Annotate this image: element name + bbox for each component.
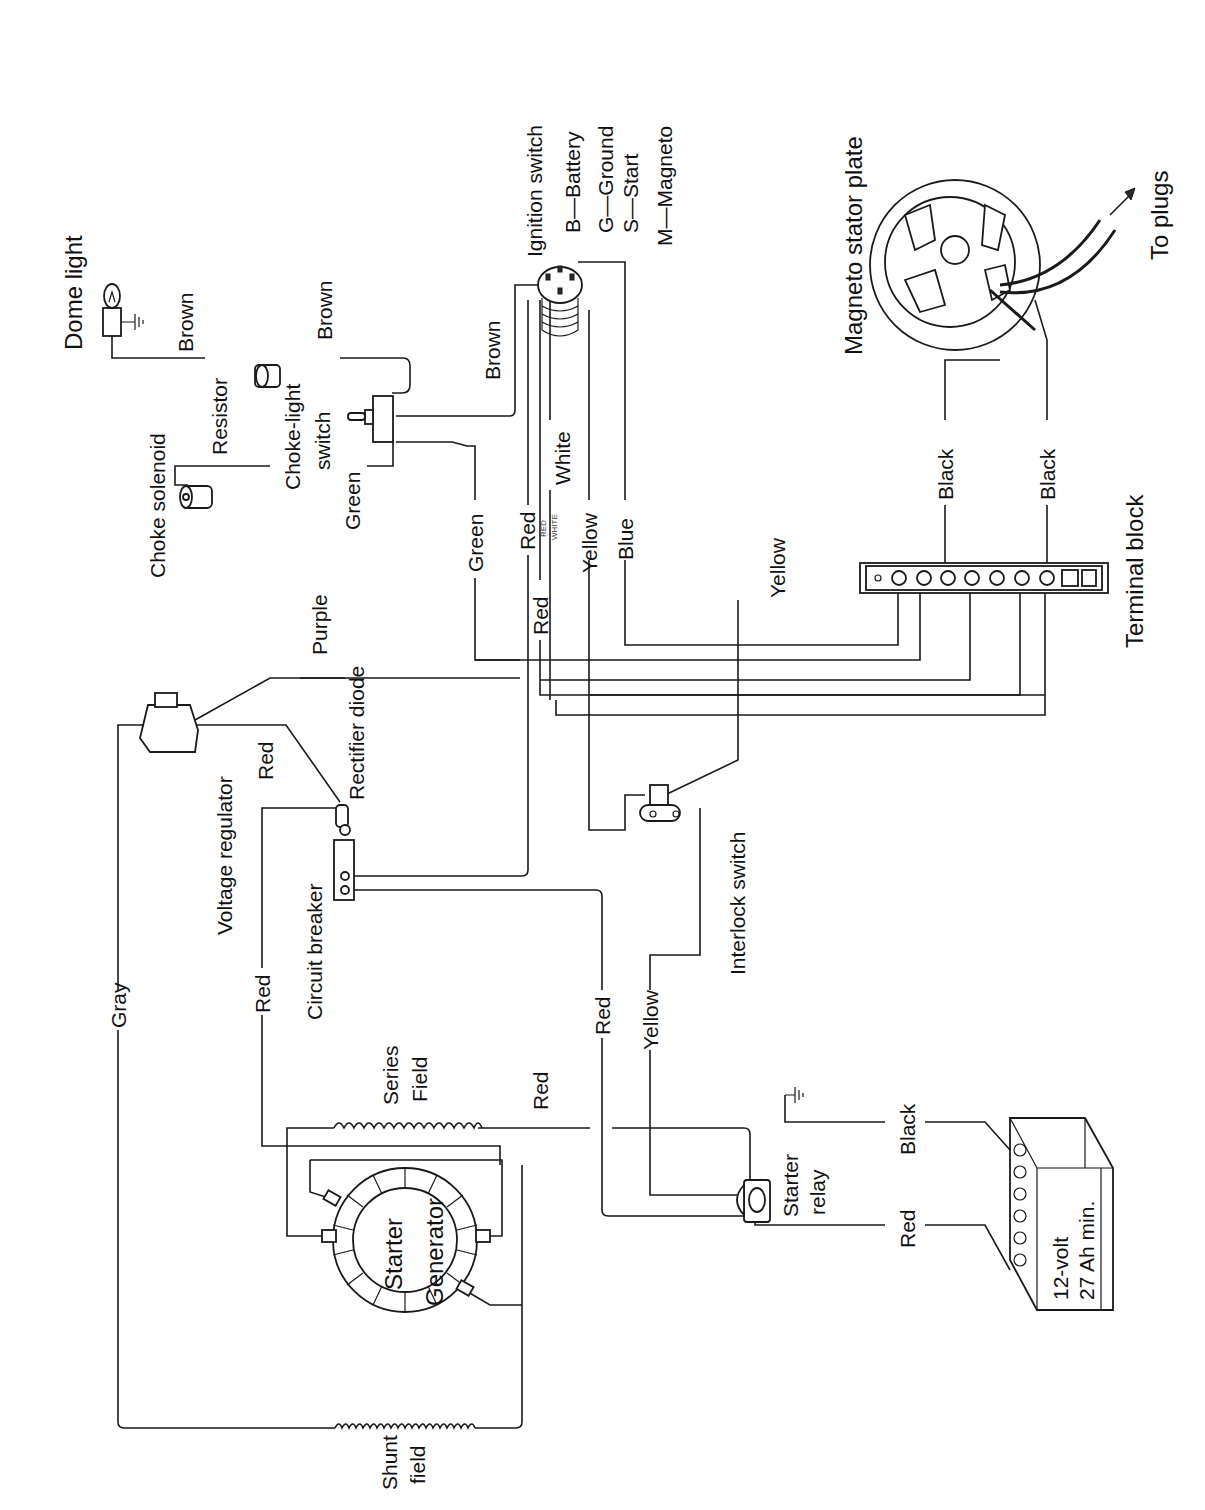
label-battery-1: 12-volt [1049,1237,1072,1300]
label-resistor: Resistor [208,378,231,455]
wire-label-red-mid: Red [591,996,614,1035]
wire-label-gray: Gray [107,982,130,1028]
wire-label-white-small: WHITE [550,514,559,540]
wire-label-red-regulator: Red [254,741,277,780]
wire-label-purple: Purple [308,594,331,655]
label-choke-light-switch-2: switch [311,412,334,470]
label-magneto-stator-plate: Magneto stator plate [840,136,867,355]
choke-light-switch-icon [348,396,393,442]
wire-label-brown-dome: Brown [174,292,197,352]
label-series-field-1: Series [379,1045,402,1105]
label-starter-relay-2: relay [806,1169,829,1215]
wire-label-red-cb: Red [251,974,274,1013]
label-interlock-switch: Interlock switch [726,831,749,975]
wire-label-red-series: Red [529,1071,552,1110]
label-choke-light-switch-1: Choke-light [281,384,304,490]
wire-label-green-main: Green [464,514,487,572]
label-battery-2: 27 Ah min. [1075,1201,1098,1300]
label-shunt-field-2: field [406,1445,429,1484]
label-ignition-legend-s: S—Start [619,153,642,233]
series-field-coil-icon [334,1123,482,1128]
wire-label-brown-switch: Brown [313,280,336,340]
label-starter-relay-1: Starter [779,1154,802,1217]
label-generator: Generator [421,1198,448,1306]
ignition-switch-icon [538,266,582,336]
wires [112,262,1047,1428]
label-shunt-field-1: Shunt [378,1435,401,1490]
wire-label-black-battery: Black [896,1103,919,1155]
wire-label-black-1: Black [934,448,957,500]
label-series-field-2: Field [408,1056,431,1102]
wire-label-white: White [551,431,574,485]
wire-label-red-battery: Red [896,1209,919,1248]
wire-label-black-2: Black [1036,448,1059,500]
resistor-icon [255,365,280,387]
label-rectifier-diode: Rectifier diode [345,666,368,800]
voltage-regulator-icon [140,693,198,752]
terminal-block-icon [860,563,1108,593]
label-ignition-switch: Ignition switch [523,125,546,257]
wire-label-yellow-mid: Yellow [639,989,662,1050]
wire-label-red-small: RED [539,520,548,537]
wire-label-yellow-tb: Yellow [766,537,789,598]
shunt-field-coil-icon [335,1424,475,1428]
wire-label-green-switch: Green [341,472,364,530]
label-circuit-breaker: Circuit breaker [303,883,326,1020]
choke-solenoid-icon [180,486,212,508]
label-ignition-legend-m: M—Magneto [653,126,676,246]
wire-label-yellow-ign: Yellow [578,512,601,573]
wire-label-blue: Blue [614,518,637,560]
magneto-stator-plate-icon [870,180,1135,350]
label-starter: Starter [380,1218,407,1290]
wiring-diagram: Dome light Choke solenoid Resistor Choke… [0,0,1205,1510]
wire-label-brown-ignition: Brown [481,320,504,380]
circuit-breaker-icon [334,805,354,900]
label-ignition-legend-g: G—Ground [594,126,617,233]
label-ignition-legend-b: B—Battery [561,131,584,233]
label-terminal-block: Terminal block [1121,494,1148,648]
wire-label-red-ign-upper: Red [516,511,539,550]
label-to-plugs: To plugs [1146,171,1173,260]
label-voltage-regulator: Voltage regulator [213,776,236,935]
dome-light-icon [103,284,121,336]
label-dome-light: Dome light [60,235,87,350]
label-choke-solenoid: Choke solenoid [146,433,169,578]
wire-label-red-ign-lower: Red [529,596,552,635]
